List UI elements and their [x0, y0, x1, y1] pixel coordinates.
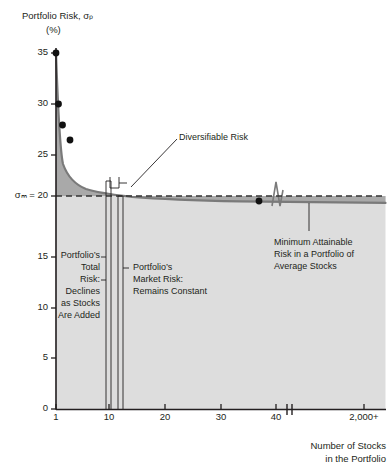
y-tick-label-0: 0	[20, 402, 48, 413]
total-risk-line1: Portfolio’s	[38, 250, 100, 261]
x-tick-label-2000plus: 2,000+	[340, 411, 388, 422]
total-risk-line3: Risk:	[38, 274, 100, 285]
total-risk-line6: Are Added	[38, 310, 100, 321]
diversifiable-risk-leader-line	[131, 139, 177, 187]
total-risk-line4: Declines	[38, 286, 100, 297]
minimum-risk-line1: Minimum Attainable	[274, 237, 353, 248]
total-risk-line2: Total	[38, 262, 100, 273]
total-risk-curve	[56, 53, 386, 203]
portfolio-risk-chart: Portfolio Risk, σₚ (%)	[0, 0, 391, 471]
y-tick-label-30: 30	[20, 97, 48, 108]
minimum-risk-line2: Risk in a Portfolio of	[274, 249, 354, 260]
x-tick-label-30: 30	[210, 411, 232, 422]
x-tick-label-10: 10	[98, 411, 120, 422]
data-point-markers	[53, 50, 263, 205]
y-tick-label-5: 5	[20, 351, 48, 362]
chart-canvas	[0, 0, 391, 471]
minimum-risk-line3: Average Stocks	[274, 261, 337, 272]
diversifiable-risk-bracket	[110, 177, 127, 188]
x-tick-label-40: 40	[265, 411, 287, 422]
diversifiable-risk-label: Diversifiable Risk	[179, 132, 248, 143]
x-axis-title-line1: Number of Stocks	[268, 440, 386, 451]
y-tick-label-35: 35	[20, 46, 48, 57]
x-axis-title-line2: in the Portfolio	[268, 453, 386, 464]
market-risk-line2: Market Risk:	[133, 274, 183, 285]
y-tick-label-25: 25	[20, 148, 48, 159]
total-risk-line5: as Stocks	[38, 298, 100, 309]
market-risk-line1: Portfolio’s	[133, 262, 172, 273]
market-risk-region	[56, 196, 386, 409]
x-tick-label-20: 20	[154, 411, 176, 422]
y-tick-label-market-risk: σₘ = 20	[0, 189, 48, 200]
x-tick-label-1: 1	[45, 411, 67, 422]
market-risk-line3: Remains Constant	[133, 286, 207, 297]
diversifiable-risk-region	[56, 53, 386, 203]
